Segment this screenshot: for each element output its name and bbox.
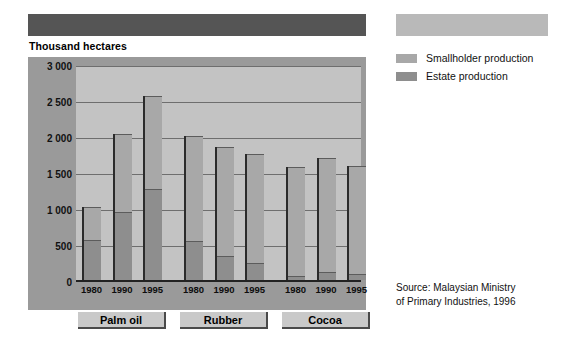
source-line-2: of Primary Industries, 1996	[396, 295, 571, 309]
bar-segment-smallholder[interactable]	[319, 158, 336, 272]
stacked-bar[interactable]	[184, 136, 203, 280]
title-banner-left	[28, 14, 366, 36]
stacked-bar[interactable]	[347, 166, 366, 280]
stacked-bar[interactable]	[317, 158, 336, 280]
legend-label: Smallholder production	[426, 52, 533, 64]
x-tick-group: 198019901995	[82, 284, 162, 298]
bar-segment-estate[interactable]	[217, 256, 234, 280]
legend-item[interactable]: Estate production	[396, 70, 571, 82]
bar-column[interactable]	[286, 66, 305, 280]
category-label-row: Palm oilRubberCocoa	[76, 312, 366, 332]
bar-segment-estate[interactable]	[115, 212, 132, 280]
stacked-bar[interactable]	[113, 134, 132, 280]
stacked-bar[interactable]	[245, 154, 264, 280]
bar-group	[184, 66, 264, 280]
plot-area	[76, 66, 361, 282]
bar-segment-smallholder[interactable]	[288, 167, 305, 276]
x-tick-label: 1990	[316, 284, 335, 298]
bar-group	[82, 66, 162, 280]
bar-segment-smallholder[interactable]	[247, 154, 264, 263]
bar-segment-smallholder[interactable]	[217, 147, 234, 256]
y-tick-label: 1 000	[47, 205, 72, 216]
bar-segment-estate[interactable]	[349, 274, 366, 280]
x-tick-label: 1980	[285, 284, 304, 298]
bar-segment-estate[interactable]	[84, 240, 101, 280]
y-tick-label: 3 000	[47, 61, 72, 72]
x-tick-group: 198019901995	[286, 284, 366, 298]
bar-segment-estate[interactable]	[288, 276, 305, 280]
bar-segment-smallholder[interactable]	[145, 96, 162, 188]
x-tick-group: 198019901995	[184, 284, 264, 298]
legend-swatch-icon	[396, 54, 417, 63]
x-tick-label: 1995	[244, 284, 263, 298]
bar-column[interactable]	[184, 66, 203, 280]
bar-segment-estate[interactable]	[186, 241, 203, 280]
bar-column[interactable]	[347, 66, 366, 280]
chart-container: 3 0002 5002 0001 5001 0005000 1980199019…	[28, 57, 366, 310]
stacked-bar[interactable]	[143, 96, 162, 280]
bar-group	[286, 66, 366, 280]
x-tick-label: 1980	[183, 284, 202, 298]
x-axis: 198019901995198019901995198019901995	[76, 284, 361, 298]
x-tick-label: 1990	[112, 284, 131, 298]
bar-segment-smallholder[interactable]	[349, 166, 366, 275]
x-tick-label: 1995	[142, 284, 161, 298]
bar-segment-smallholder[interactable]	[115, 134, 132, 212]
category-label-cocoa: Cocoa	[282, 312, 370, 329]
legend-swatch-icon	[396, 72, 417, 81]
y-tick-label: 1 500	[47, 169, 72, 180]
chart-legend: Smallholder productionEstate production	[396, 52, 571, 88]
bar-column[interactable]	[82, 66, 101, 280]
bar-segment-estate[interactable]	[247, 263, 264, 280]
legend-item[interactable]: Smallholder production	[396, 52, 571, 64]
x-tick-label: 1995	[346, 284, 365, 298]
bar-column[interactable]	[143, 66, 162, 280]
category-label-palm-oil: Palm oil	[78, 312, 166, 329]
y-axis: 3 0002 5002 0001 5001 0005000	[28, 57, 76, 282]
stacked-bar[interactable]	[82, 207, 101, 280]
bar-column[interactable]	[317, 66, 336, 280]
source-note: Source: Malaysian Ministry of Primary In…	[396, 281, 571, 309]
category-label-rubber: Rubber	[180, 312, 268, 329]
bar-segment-smallholder[interactable]	[84, 207, 101, 240]
y-axis-unit-label: Thousand hectares	[29, 40, 127, 52]
bar-segment-estate[interactable]	[145, 189, 162, 280]
y-tick-label: 2 500	[47, 97, 72, 108]
y-tick-label: 0	[66, 277, 72, 288]
legend-label: Estate production	[426, 70, 508, 82]
bar-segment-smallholder[interactable]	[186, 136, 203, 241]
bar-column[interactable]	[245, 66, 264, 280]
title-banner-right	[396, 14, 548, 36]
y-tick-label: 2 000	[47, 133, 72, 144]
x-tick-label: 1990	[214, 284, 233, 298]
stacked-bar[interactable]	[286, 167, 305, 280]
bar-segment-estate[interactable]	[319, 272, 336, 280]
bar-column[interactable]	[215, 66, 234, 280]
bars-layer	[76, 66, 361, 280]
x-tick-label: 1980	[81, 284, 100, 298]
bar-column[interactable]	[113, 66, 132, 280]
stacked-bar[interactable]	[215, 147, 234, 280]
source-line-1: Source: Malaysian Ministry	[396, 281, 571, 295]
y-tick-label: 500	[55, 241, 72, 252]
